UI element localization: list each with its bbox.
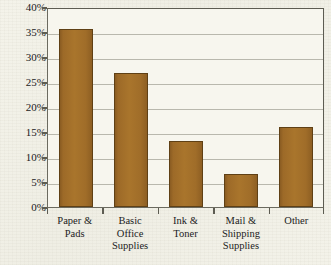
- x-axis-category-label-line: Paper &: [48, 215, 101, 228]
- x-axis-ticks: [47, 208, 324, 214]
- x-axis-category-label: Ink &Toner: [158, 215, 213, 253]
- y-axis-tick-label: 25%: [2, 77, 46, 88]
- bar-slot: [103, 9, 158, 207]
- y-axis-tick-mark: [42, 182, 47, 183]
- y-axis-tick-mark: [42, 7, 47, 8]
- y-axis-tick-label: 30%: [2, 52, 46, 63]
- x-axis-labels: Paper &PadsBasicOfficeSuppliesInk &Toner…: [47, 215, 324, 253]
- x-axis-category-label-line: Pads: [48, 228, 101, 241]
- x-axis-category-label: Mail &ShippingSupplies: [213, 215, 268, 253]
- x-axis-category-label: BasicOfficeSupplies: [102, 215, 157, 253]
- y-axis-tick-label: 5%: [2, 177, 46, 188]
- x-axis-category-label: Paper &Pads: [47, 215, 102, 253]
- y-axis-tick-mark: [42, 82, 47, 83]
- x-axis-tick-mark: [102, 208, 103, 214]
- x-axis-category-label: Other: [269, 215, 324, 253]
- y-axis-tick-label: 15%: [2, 127, 46, 138]
- y-axis-tick-label: 10%: [2, 152, 46, 163]
- bar[interactable]: [169, 141, 203, 207]
- x-axis-tick-mark: [323, 208, 324, 214]
- x-axis-category-label-line: Ink &: [159, 215, 212, 228]
- x-axis-category-label-line: Office: [103, 228, 156, 241]
- bars-layer: [48, 9, 323, 207]
- x-axis-category-label-line: Shipping: [214, 228, 267, 241]
- bar-chart: Paper &PadsBasicOfficeSuppliesInk &Toner…: [0, 0, 331, 265]
- bar[interactable]: [59, 29, 93, 208]
- bar-slot: [48, 9, 103, 207]
- bar[interactable]: [279, 127, 313, 208]
- bar[interactable]: [114, 73, 148, 207]
- bar-slot: [268, 9, 323, 207]
- y-axis-tick-label: 35%: [2, 27, 46, 38]
- x-axis-category-label-line: Supplies: [214, 240, 267, 253]
- y-axis-tick-mark: [42, 157, 47, 158]
- x-axis-tick-mark: [158, 208, 159, 214]
- y-axis-tick-mark: [42, 32, 47, 33]
- x-axis-category-label-line: Toner: [159, 228, 212, 241]
- y-axis-tick-mark: [42, 107, 47, 108]
- bar-slot: [158, 9, 213, 207]
- bar-slot: [213, 9, 268, 207]
- y-axis-tick-label: 40%: [2, 2, 46, 13]
- y-axis-tick-mark: [42, 57, 47, 58]
- bar[interactable]: [224, 174, 258, 208]
- x-axis-category-label-line: Mail &: [214, 215, 267, 228]
- x-axis-tick-mark: [47, 208, 48, 214]
- y-axis-tick-label: 20%: [2, 102, 46, 113]
- x-axis-category-label-line: Basic: [103, 215, 156, 228]
- x-axis-tick-mark: [269, 208, 270, 214]
- y-axis-tick-mark: [42, 207, 47, 208]
- y-axis-tick-mark: [42, 132, 47, 133]
- x-axis-category-label-line: Other: [270, 215, 323, 228]
- plot-area: [47, 8, 324, 208]
- x-axis-category-label-line: Supplies: [103, 240, 156, 253]
- y-axis-tick-label: 0%: [2, 202, 46, 213]
- x-axis-tick-mark: [213, 208, 214, 214]
